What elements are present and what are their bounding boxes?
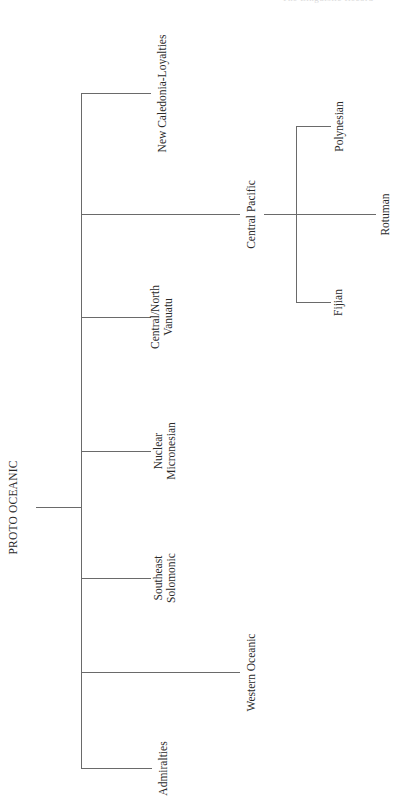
root-connector bbox=[36, 507, 81, 508]
central-pacific-trunk bbox=[296, 126, 297, 303]
branch-polynesian bbox=[296, 126, 331, 127]
label-line-2: Solomonic bbox=[165, 550, 178, 606]
label-central-pacific: Central Pacific bbox=[245, 172, 258, 258]
branch-southeast-solomonic bbox=[81, 578, 151, 579]
label-southeast-solomonic: Southeast Solomonic bbox=[152, 550, 178, 606]
central-pacific-split bbox=[264, 214, 376, 215]
label-new-caledonia-loyalties: New Caledonia-Loyalties bbox=[156, 29, 169, 159]
running-header: The Linguistic Record bbox=[282, 0, 373, 3]
branch-fijian bbox=[296, 302, 331, 303]
main-trunk bbox=[81, 93, 82, 769]
branch-nuclear-micronesian bbox=[81, 451, 151, 452]
label-nuclear-micronesian: Nuclear Micronesian bbox=[152, 420, 178, 482]
branch-central-north-vanuatu bbox=[81, 317, 151, 318]
label-rotuman: Rotuman bbox=[379, 190, 392, 240]
branch-new-caledonia bbox=[81, 93, 151, 94]
label-western-oceanic: Western Oceanic bbox=[245, 630, 258, 716]
label-line-1: Southeast bbox=[152, 550, 165, 606]
branch-central-pacific bbox=[81, 214, 240, 215]
branch-admiralties bbox=[81, 768, 152, 769]
label-central-north-vanuatu: Central/North Vanuatu bbox=[149, 285, 175, 349]
branch-western-oceanic bbox=[81, 672, 240, 673]
label-line-1: Central/North bbox=[149, 285, 162, 349]
label-line-1: Nuclear bbox=[152, 420, 165, 482]
root-label: PROTO OCEANIC bbox=[7, 460, 20, 556]
label-line-2: Micronesian bbox=[165, 420, 178, 482]
label-line-2: Vanuatu bbox=[162, 285, 175, 349]
label-fijian: Fijian bbox=[332, 285, 345, 321]
label-admiralties: Admiralties bbox=[157, 739, 170, 799]
label-polynesian: Polynesian bbox=[333, 95, 346, 159]
